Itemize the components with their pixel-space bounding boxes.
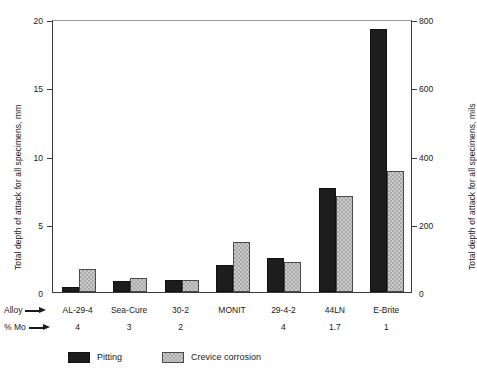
bar-crevice-corrosion (284, 262, 301, 292)
mo-row-label: % Mo (4, 322, 51, 332)
mo-value-44ln: 1.7 (329, 322, 341, 332)
y-tick-label-left: 15 (9, 84, 43, 94)
mo-value-e-brite: 1 (384, 322, 389, 332)
figure-caption (95, 369, 467, 378)
bar-group (267, 21, 301, 292)
mo-row-text: % Mo (4, 322, 26, 332)
y-tick-label-right: 200 (419, 221, 453, 231)
bar-pitting (165, 280, 182, 292)
bar-pitting (216, 265, 233, 292)
mo-value-sea-cure: 3 (127, 322, 132, 332)
legend-swatch-pitting (68, 352, 90, 363)
y-tick-label-right: 600 (419, 84, 453, 94)
mo-value-30-2: 2 (178, 322, 183, 332)
legend-swatch-crevice-corrosion (162, 352, 184, 363)
arrow-right-icon (29, 324, 51, 331)
bar-group (62, 21, 96, 292)
plot-area: 20 15 10 5 0 800 600 400 200 0 (52, 20, 412, 293)
legend-item-crevice-corrosion: Crevice corrosion (162, 352, 261, 363)
bar-pitting (113, 281, 130, 292)
y-tick-label-left: 0 (9, 289, 43, 299)
bar-groups (53, 21, 411, 292)
bar-crevice-corrosion (387, 171, 404, 292)
alloy-label-sea-cure: Sea-Cure (111, 305, 147, 315)
alloy-label-29-4-2: 29-4-2 (271, 305, 296, 315)
mo-value-29-4-2: 4 (281, 322, 286, 332)
alloy-row-label: Alloy (4, 305, 47, 315)
arrow-right-icon (25, 307, 47, 314)
bar-crevice-corrosion (182, 280, 199, 292)
bar-group (216, 21, 250, 292)
legend-item-pitting: Pitting (68, 352, 122, 363)
bar-crevice-corrosion (233, 242, 250, 293)
chart-legend: Pitting Crevice corrosion (68, 349, 261, 365)
bar-crevice-corrosion (130, 278, 147, 292)
y-tick-label-right: 800 (419, 16, 453, 26)
y-tick-label-right: 400 (419, 153, 453, 163)
mo-value-al-29-4: 4 (75, 322, 80, 332)
bar-pitting (62, 287, 79, 292)
y-tick-label-left: 20 (9, 16, 43, 26)
bar-group (165, 21, 199, 292)
bar-group (370, 21, 404, 292)
alloy-label-al-29-4: AL-29-4 (63, 305, 93, 315)
y-tick-label-left: 5 (9, 221, 43, 231)
bar-pitting (267, 258, 284, 292)
bar-group (319, 21, 353, 292)
bar-pitting (370, 29, 387, 292)
alloy-label-e-brite: E-Brite (373, 305, 399, 315)
bar-pitting (319, 188, 336, 292)
alloy-row-text: Alloy (4, 305, 22, 315)
bar-crevice-corrosion (79, 269, 96, 292)
bar-crevice-corrosion (336, 196, 353, 292)
alloy-label-44ln: 44LN (325, 305, 345, 315)
y-axis-title-right: Total depth of attack for all specimens,… (467, 103, 477, 270)
bar-group (113, 21, 147, 292)
y-tick-label-left: 10 (9, 153, 43, 163)
legend-label-crevice-corrosion: Crevice corrosion (191, 352, 261, 362)
y-axis-title-left: Total depth of attack for all specimens,… (13, 105, 23, 270)
alloy-label-monit: MONIT (218, 305, 245, 315)
y-tick-label-right: 0 (419, 289, 453, 299)
legend-label-pitting: Pitting (97, 352, 122, 362)
alloy-label-30-2: 30-2 (172, 305, 189, 315)
